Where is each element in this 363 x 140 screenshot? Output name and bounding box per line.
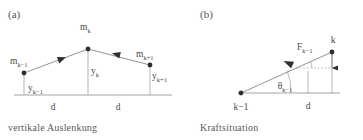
mass-node-k	[86, 47, 91, 52]
spacing-label-left: d	[51, 102, 56, 112]
panel-b-spacing-label: d	[306, 101, 311, 111]
mass-node-k-plus-1	[148, 63, 153, 68]
panel-a-caption: vertikale Auslenkung	[8, 122, 97, 133]
node-k-minus-1	[239, 91, 244, 96]
mass-label-k-minus-1: mk−1	[10, 56, 28, 68]
force-arrow	[282, 58, 294, 69]
node-k	[330, 50, 335, 55]
displacement-label-k: yk	[91, 66, 100, 78]
force-label: Fk−1	[297, 42, 312, 54]
panel-b-label: (b)	[200, 8, 213, 21]
node-label-k: k	[331, 35, 336, 45]
node-label-k-minus-1: k−1	[234, 102, 249, 112]
panel-b-caption: Kraftsituation	[200, 122, 258, 133]
tension-arrow-left	[57, 54, 67, 63]
panel-a: (a) mk−1 mk mk+1 yk−1 yk yk+1 d	[8, 8, 172, 133]
mass-label-k-plus-1: mk+1	[136, 49, 154, 61]
displacement-label-k-minus-1: yk−1	[28, 83, 43, 95]
panel-b: (b) k−1 k Fk−1 θk−1 d	[200, 8, 340, 133]
mass-node-k-minus-1	[22, 71, 27, 76]
angle-label: θk−1	[278, 81, 293, 93]
two-panel-physics-diagram: (a) mk−1 mk mk+1 yk−1 yk yk+1 d	[0, 0, 363, 140]
tension-arrow-right	[111, 50, 121, 59]
mass-label-k: mk	[80, 22, 91, 34]
panel-a-label: (a)	[8, 8, 21, 21]
force-angle-arc	[311, 62, 312, 68]
spacing-label-right: d	[116, 102, 121, 112]
displacement-label-k-plus-1: yk+1	[152, 71, 167, 83]
string-segment-left	[24, 49, 88, 73]
